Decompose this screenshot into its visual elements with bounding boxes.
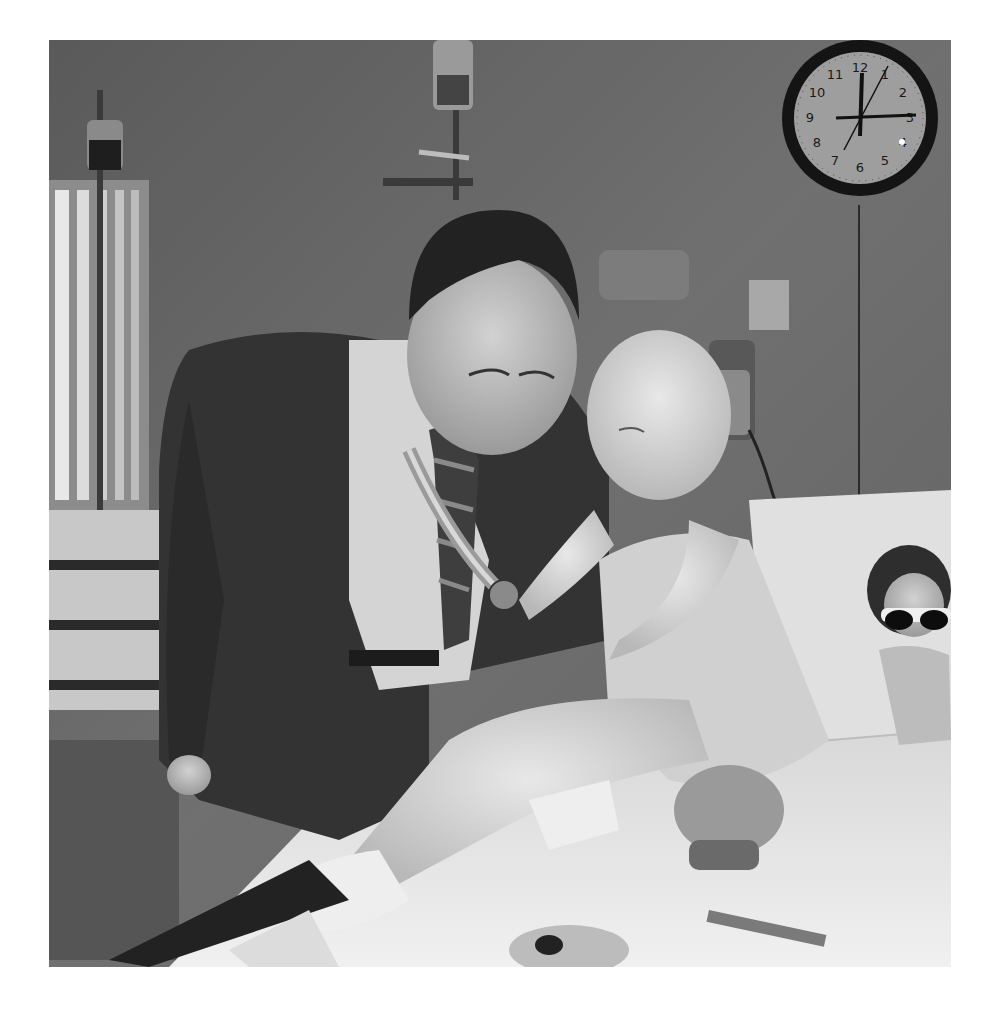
svg-text:8: 8 [813,135,821,150]
minute-hand [860,73,862,136]
svg-text:6: 6 [856,160,864,175]
photo-scene: 12 1 2 3 4 5 6 7 8 9 10 11 [49,40,951,967]
svg-text:7: 7 [831,153,839,168]
svg-text:9: 9 [806,110,814,125]
svg-text:3: 3 [906,110,914,125]
svg-text:2: 2 [899,85,907,100]
svg-text:10: 10 [809,85,826,100]
svg-text:12: 12 [852,60,869,75]
wall-clock: 12 1 2 3 4 5 6 7 8 9 10 11 [782,40,938,196]
svg-text:11: 11 [827,67,844,82]
svg-text:5: 5 [881,153,889,168]
photograph: Black-and-white photograph: a man in a s… [49,40,951,967]
svg-text:1: 1 [881,67,889,82]
